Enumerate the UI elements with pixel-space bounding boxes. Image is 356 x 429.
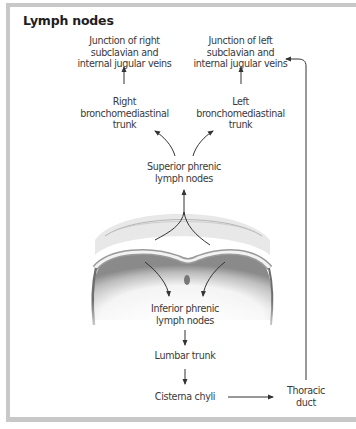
label-line: Superior phrenic xyxy=(129,161,239,173)
label-line: Thoracic xyxy=(276,385,336,397)
node-cisterna-chyli: Cisterna chyli xyxy=(130,391,240,403)
label-line: internal jugular veins xyxy=(62,58,187,70)
label-line: Inferior phrenic xyxy=(130,303,240,315)
label-line: trunk xyxy=(67,119,182,131)
label-line: bronchomediastinal xyxy=(67,108,182,120)
label-line: Junction of left xyxy=(178,35,303,47)
node-junction-left: Junction of left subclavian and internal… xyxy=(178,35,303,70)
label-line: internal jugular veins xyxy=(178,58,303,70)
label-line: duct xyxy=(276,397,336,409)
label-line: Left xyxy=(183,96,298,108)
label-line: Cisterna chyli xyxy=(130,391,240,403)
node-lumbar-trunk: Lumbar trunk xyxy=(130,350,240,362)
label-line: subclavian and xyxy=(178,47,303,59)
node-left-bronchomediastinal-trunk: Left bronchomediastinal trunk xyxy=(183,96,298,131)
node-superior-phrenic-lymph-nodes: Superior phrenic lymph nodes xyxy=(129,161,239,184)
node-right-bronchomediastinal-trunk: Right bronchomediastinal trunk xyxy=(67,96,182,131)
label-line: trunk xyxy=(183,119,298,131)
node-thoracic-duct: Thoracic duct xyxy=(276,385,336,408)
label-line: lymph nodes xyxy=(130,315,240,327)
label-line: Lumbar trunk xyxy=(130,350,240,362)
label-line: lymph nodes xyxy=(129,173,239,185)
label-line: Right xyxy=(67,96,182,108)
label-line: bronchomediastinal xyxy=(183,108,298,120)
label-line: subclavian and xyxy=(62,47,187,59)
node-junction-right: Junction of right subclavian and interna… xyxy=(62,35,187,70)
label-line: Junction of right xyxy=(62,35,187,47)
node-inferior-phrenic-lymph-nodes: Inferior phrenic lymph nodes xyxy=(130,303,240,326)
